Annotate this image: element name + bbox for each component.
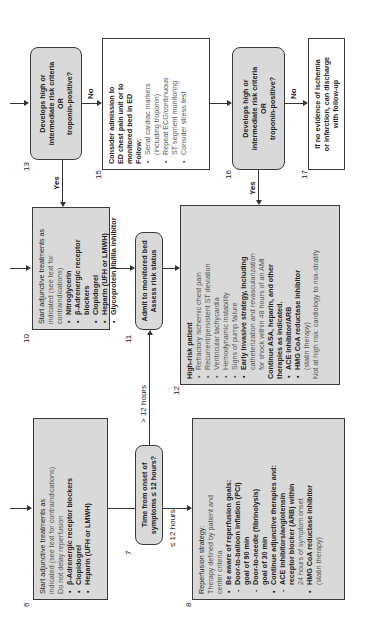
node-11-admit-monitored-bed: Admit to monitored bed Assess risk statu… bbox=[135, 232, 163, 330]
edge-15-16 bbox=[210, 103, 228, 104]
edge-label-yes-13: Yes bbox=[52, 176, 61, 190]
list-item: Signs of pump failure bbox=[230, 211, 239, 379]
list-item: Consider stress test bbox=[179, 44, 188, 164]
node-16-line4: troponin-positive? bbox=[268, 53, 277, 164]
node-13-line3: OR bbox=[56, 53, 65, 154]
node-number-13: 13 bbox=[22, 162, 31, 171]
edge-16-17 bbox=[285, 103, 304, 104]
node-6-adjunctive-treatments: Start adjunctive treatments as indicated… bbox=[33, 418, 108, 600]
list-item: β-Adrenergic receptor blockers bbox=[65, 424, 74, 594]
list-item: Heparin (UFH or LMWH) bbox=[83, 424, 92, 594]
list-item: Door-to-balloon inflation (PCI) bbox=[233, 424, 242, 594]
edge-label-no-13: No bbox=[86, 88, 95, 99]
edge-13-15 bbox=[82, 103, 98, 104]
node-16-risk-decision: Develops high or intermediate risk crite… bbox=[232, 47, 285, 170]
node-number-16: 16 bbox=[224, 170, 233, 179]
node-7-time-decision: Time from onset of symptoms ≤ 12 hours? bbox=[135, 445, 163, 545]
list-item: catheterization and revascularization bbox=[248, 211, 257, 379]
node-number-8: 8 bbox=[184, 603, 193, 607]
node-15-line1: Consider admission to bbox=[107, 44, 116, 164]
list-item: 24 hours of symptom onset bbox=[296, 424, 305, 594]
node-12-title: High-risk patient bbox=[185, 211, 194, 379]
node-6-list: β-Adrenergic receptor blockers Clopidogr… bbox=[65, 424, 92, 594]
list-item: Nitroglycerin bbox=[64, 213, 73, 324]
node-12-cont1: Continue ASA, heparin, and other bbox=[266, 211, 275, 379]
node-17-line2: or infarction, can discharge bbox=[322, 44, 331, 164]
edge-label-le-12-hours: ≤ 12 hours bbox=[168, 509, 177, 547]
node-10-line2: indicated (see text for contraindication… bbox=[46, 213, 64, 324]
list-item: Repeat ECG/continuous bbox=[161, 44, 170, 164]
list-item: ACE inhibitors/angiotensin bbox=[278, 424, 287, 594]
node-12-list2: ACE inhibitor/ARB HMG CoA reductase inhi… bbox=[284, 211, 311, 379]
list-item: Heparin (UFH or LMWH) bbox=[100, 213, 109, 324]
node-number-17: 17 bbox=[300, 170, 309, 179]
list-item: for shock within 48 hours of an AMI bbox=[257, 211, 266, 379]
edge-label-yes-16: Yes bbox=[248, 181, 257, 195]
node-13-line1: Develops high or bbox=[38, 53, 47, 154]
node-12-cont2: therapies as indicated. bbox=[275, 211, 284, 379]
list-item: (including troponin) bbox=[152, 44, 161, 164]
list-item: Recurrent/persistent ST deviation bbox=[203, 211, 212, 379]
node-10-adjunctive-treatments: Start adjunctive treatments as indicated… bbox=[32, 207, 110, 330]
node-7-line2: symptoms ≤ 12 hours? bbox=[149, 451, 158, 539]
node-15-consider-admission: Consider admission to ED chest pain unit… bbox=[102, 38, 210, 170]
edge-16-12 bbox=[258, 170, 259, 201]
node-12-high-risk-patient: High-risk patient Refractory ischemic ch… bbox=[180, 205, 340, 385]
node-13-risk-decision: Develops high or intermediate risk crite… bbox=[30, 47, 82, 160]
node-10-line1: Start adjunctive treatments as bbox=[37, 213, 46, 324]
node-number-10: 10 bbox=[22, 334, 31, 343]
node-15-line2: ED chest pain unit or to bbox=[116, 44, 125, 164]
incoming-arrow-6 bbox=[10, 508, 28, 509]
flowchart-canvas: 6 Start adjunctive treatments as indicat… bbox=[0, 0, 368, 635]
node-16-line3: OR bbox=[259, 53, 268, 164]
edge-label-gt-12-hours: > 12 hours bbox=[139, 385, 148, 423]
list-item: Early invasive strategy, including bbox=[239, 211, 248, 379]
list-item: goal of 90 min bbox=[242, 424, 251, 594]
node-6-line2: indicated (see text for contraindication… bbox=[47, 424, 56, 594]
list-item: Clopidogrel bbox=[74, 424, 83, 594]
node-number-12: 12 bbox=[172, 386, 181, 395]
node-number-11: 11 bbox=[124, 335, 133, 343]
list-item: (statin therapy) bbox=[314, 424, 323, 594]
edge-label-no-16: No bbox=[289, 88, 298, 99]
node-6-line3: Do not delay reperfusion bbox=[56, 424, 65, 594]
node-11-line1: Admit to monitored bed bbox=[140, 238, 149, 324]
list-item: Continue adjunctive therapies and: bbox=[269, 424, 278, 594]
node-15-line3: monitored bed in ED bbox=[125, 44, 134, 164]
node-15-line4: Follow: bbox=[134, 44, 143, 164]
edge-7-11 bbox=[149, 334, 150, 445]
node-16-line1: Develops high or bbox=[241, 53, 250, 164]
node-13-line4: troponin-positive? bbox=[65, 53, 74, 154]
node-17-line3: with follow-up bbox=[331, 44, 340, 164]
node-8-title: Reperfusion strategy: bbox=[197, 424, 206, 594]
node-11-line2: Assess risk status bbox=[149, 238, 158, 324]
node-number-6: 6 bbox=[22, 603, 31, 607]
list-item: ACE inhibitor/ARB bbox=[284, 211, 293, 379]
list-item: Clopidogrel bbox=[91, 213, 100, 324]
list-item: ST segment monitoring bbox=[170, 44, 179, 164]
list-item: (statin therapy) bbox=[302, 211, 311, 379]
edge-13-10 bbox=[62, 160, 63, 203]
list-item: HMG CoA reductase inhibitor bbox=[305, 424, 314, 594]
node-number-7: 7 bbox=[124, 551, 133, 555]
node-6-line1: Start adjunctive treatments as bbox=[38, 424, 47, 594]
list-item: Hemodynamic instability bbox=[221, 211, 230, 379]
list-item: receptor blocker (ARB) within bbox=[287, 424, 296, 594]
incoming-arrow-10 bbox=[10, 268, 27, 269]
edge-10-11 bbox=[110, 268, 131, 269]
node-13-line2: intermediate risk criteria bbox=[47, 53, 56, 154]
list-item: Door-to-needle (fibrinolysis) bbox=[251, 424, 260, 594]
node-8-list: Be aware of reperfusion goals: Door-to-b… bbox=[224, 424, 323, 594]
list-item: Be aware of reperfusion goals: bbox=[224, 424, 233, 594]
list-item: goal of 30 min bbox=[260, 424, 269, 594]
incoming-arrow-13 bbox=[10, 103, 25, 104]
node-16-line2: intermediate risk criteria bbox=[250, 53, 259, 164]
node-7-line1: Time from onset of bbox=[140, 451, 149, 539]
edge-11-12 bbox=[163, 268, 176, 269]
node-number-15: 15 bbox=[94, 170, 103, 179]
node-12-not-high-risk: Not at high risk: cardiology to risk-str… bbox=[311, 211, 320, 379]
node-8-reperfusion-strategy: Reperfusion strategy: Therapy defined by… bbox=[192, 418, 345, 600]
list-item: Serial cardiac markers bbox=[143, 44, 152, 164]
node-8-sub1: Therapy defined by patient and bbox=[206, 424, 215, 594]
list-item: HMG CoA reductase inhibitor bbox=[293, 211, 302, 379]
